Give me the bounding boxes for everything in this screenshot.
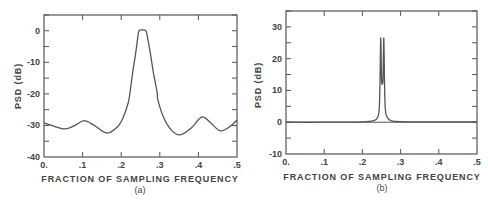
- tick-labels-b: 0..1.2.3.4.53020100-10: [269, 22, 481, 167]
- y-tick-label: -10: [269, 149, 282, 159]
- psd-curve-b: [286, 38, 477, 122]
- x-tick-label: .4: [195, 160, 203, 170]
- y-tick-label: -30: [27, 120, 40, 130]
- x-tick-label: .2: [117, 160, 125, 170]
- psd-figure: 0..1.2.3.4.50-10-20-30-40 FRACTION OF SA…: [0, 0, 488, 205]
- y-tick-label: -40: [27, 152, 40, 162]
- x-tick-label: .5: [233, 160, 241, 170]
- x-tick-label: .3: [156, 160, 164, 170]
- y-tick-label: 10: [272, 85, 282, 95]
- y-tick-label: 20: [272, 54, 282, 64]
- x-tick-label: .1: [79, 160, 87, 170]
- x-tick-label: .2: [359, 157, 367, 167]
- x-tick-label: .5: [473, 157, 481, 167]
- chart-panel-b: 0..1.2.3.4.53020100-10 FRACTION OF SAMPL…: [253, 11, 481, 193]
- psd-curve-a: [44, 30, 237, 135]
- y-tick-label: 0: [277, 117, 282, 127]
- y-tick-label: 0: [35, 26, 40, 36]
- x-tick-label: .4: [435, 157, 443, 167]
- x-tick-label: 0.: [282, 157, 290, 167]
- y-tick-label: 30: [272, 22, 282, 32]
- axis-ticks-a: [44, 15, 237, 157]
- chart-panel-a: 0..1.2.3.4.50-10-20-30-40 FRACTION OF SA…: [13, 15, 241, 195]
- x-tick-label: 0.: [40, 160, 48, 170]
- x-tick-label: .1: [320, 157, 328, 167]
- plot-frame-a: [44, 15, 237, 157]
- y-tick-label: -10: [27, 57, 40, 67]
- y-axis-label-a: PSD (dB): [13, 63, 23, 109]
- x-axis-label-b: FRACTION OF SAMPLING FREQUENCY: [283, 172, 481, 182]
- tick-labels-a: 0..1.2.3.4.50-10-20-30-40: [27, 26, 241, 170]
- y-axis-label-b: PSD (dB): [253, 62, 263, 108]
- x-axis-label-a: FRACTION OF SAMPLING FREQUENCY: [41, 174, 239, 184]
- caption-a: (a): [135, 185, 146, 195]
- x-tick-label: .3: [397, 157, 405, 167]
- caption-b: (b): [377, 183, 388, 193]
- y-tick-label: -20: [27, 89, 40, 99]
